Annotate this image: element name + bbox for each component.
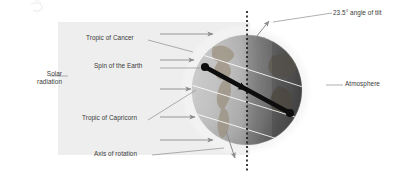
- leader-line-angle-of-tilt: [273, 13, 332, 22]
- label-axis-of-rotation: Axis of rotation: [94, 150, 137, 158]
- label-solar-radiation-line2: radiation: [8, 78, 62, 86]
- scan-artifact: [31, 1, 42, 12]
- label-solar-radiation-line1: Solar: [8, 70, 62, 78]
- label-angle-of-tilt: 23.5° angle of tilt: [333, 9, 382, 17]
- label-spin-of-the-earth: Spin of the Earth: [94, 62, 142, 70]
- label-tropic-of-cancer: Tropic of Cancer: [86, 34, 134, 42]
- earth-tilt-diagram: Solar radiation Tropic of Cancer Spin of…: [0, 0, 411, 189]
- label-atmosphere: Atmosphere: [345, 80, 380, 88]
- label-solar-radiation: Solar radiation: [8, 70, 62, 86]
- diagram-canvas: [0, 0, 411, 189]
- label-tropic-of-capricorn: Tropic of Capricorn: [82, 114, 137, 122]
